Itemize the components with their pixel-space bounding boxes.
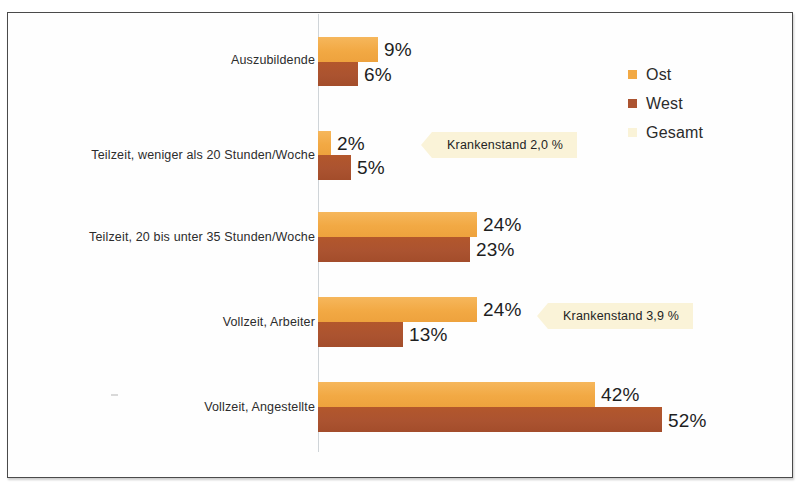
bar-value-west-teilzeit-20-35: 23% [476,239,515,261]
category-label-vollzeit-arbeiter: Vollzeit, Arbeiter [223,315,315,329]
bar-value-ost-vollzeit-arbeiter: 24% [483,299,522,321]
bar-west-teilzeit-unter-20 [318,155,351,180]
chart-screenshot: Krankenstand nach Beschäftigungsverhältn… [0,0,801,492]
bar-value-west-auszubildende: 6% [364,64,392,86]
bar-ost-teilzeit-20-35 [318,212,477,237]
bar-value-ost-teilzeit-unter-20: 2% [337,133,365,155]
legend-label-ost: Ost [646,66,672,84]
bar-ost-teilzeit-unter-20 [318,131,331,155]
callout-krankenstand-2-0: Krankenstand 2,0 % [421,132,577,158]
legend-item-west[interactable]: West [628,89,703,118]
bar-value-west-vollzeit-arbeiter: 13% [409,324,448,346]
bar-ost-vollzeit-arbeiter [318,297,477,322]
category-label-vollzeit-angestellte: Vollzeit, Angestellte [204,400,315,414]
bar-west-vollzeit-arbeiter [318,322,403,347]
legend-label-gesamt: Gesamt [646,124,703,142]
legend-item-gesamt[interactable]: Gesamt [628,118,703,147]
bar-value-ost-vollzeit-angestellte: 42% [601,384,640,406]
chart-title-cropped: Krankenstand nach Beschäftigungsverhältn… [0,0,801,8]
category-label-teilzeit-unter-20: Teilzeit, weniger als 20 Stunden/Woche [91,148,315,162]
bar-ost-vollzeit-angestellte [318,382,595,407]
bar-west-teilzeit-20-35 [318,237,470,262]
bar-value-west-teilzeit-unter-20: 5% [357,157,385,179]
bar-ost-auszubildende [318,37,378,62]
legend-swatch-gesamt-icon [628,128,637,137]
bar-value-ost-auszubildende: 9% [384,39,412,61]
category-label-auszubildende: Auszubildende [231,53,315,67]
legend-swatch-ost-icon [628,70,637,79]
bar-value-west-vollzeit-angestellte: 52% [668,410,707,432]
chart-legend: Ost West Gesamt [628,60,703,147]
scan-artifact [111,394,118,396]
legend-label-west: West [646,95,683,113]
bar-west-auszubildende [318,62,358,86]
category-label-teilzeit-20-35: Teilzeit, 20 bis unter 35 Stunden/Woche [89,230,315,244]
bar-west-vollzeit-angestellte [318,407,662,432]
bar-value-ost-teilzeit-20-35: 24% [483,214,522,236]
callout-krankenstand-3-9: Krankenstand 3,9 % [537,303,693,329]
legend-item-ost[interactable]: Ost [628,60,703,89]
legend-swatch-west-icon [628,99,637,108]
